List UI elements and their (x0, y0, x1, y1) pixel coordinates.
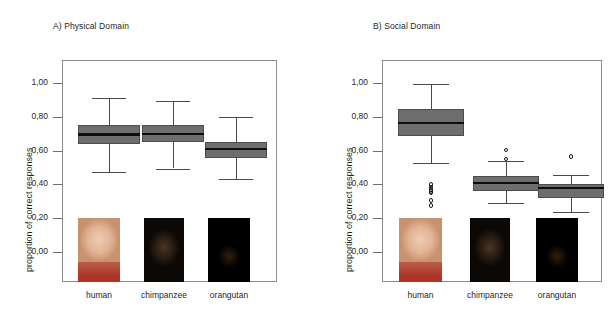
whisker-cap-upper (413, 84, 449, 85)
y-axis-tick-label: 0,20 (342, 212, 368, 222)
x-axis-label-human: human (64, 290, 134, 300)
human-child-photo (78, 218, 120, 282)
y-axis-tick-label: 0,40 (22, 178, 48, 188)
y-axis-tick (53, 184, 62, 185)
y-axis-tick (373, 252, 382, 253)
y-axis-tick (373, 151, 382, 152)
y-axis-tick-label: 0,40 (342, 178, 368, 188)
whisker-lower (571, 198, 572, 212)
whisker-upper (173, 101, 174, 126)
y-axis-tick-label: 0,80 (342, 111, 368, 121)
whisker-upper (571, 175, 572, 183)
whisker-lower (431, 136, 432, 162)
whisker-cap-upper (219, 117, 252, 118)
x-axis-label-orangutan: orangutan (194, 290, 264, 300)
y-axis-tick (373, 117, 382, 118)
median-line (78, 133, 140, 136)
whisker-upper (236, 117, 237, 142)
outlier-point (569, 154, 574, 159)
whisker-cap-lower (219, 179, 252, 180)
y-axis-tick (373, 83, 382, 84)
whisker-lower (506, 191, 507, 203)
panel-b-title: B) Social Domain (373, 21, 440, 31)
y-axis-tick (53, 252, 62, 253)
y-axis-tick-label: 0,60 (22, 145, 48, 155)
whisker-cap-upper (553, 175, 589, 176)
y-axis-tick-label: 0,80 (22, 111, 48, 121)
orangutan-photo (208, 218, 250, 282)
whisker-cap-upper (92, 98, 125, 99)
y-axis-tick-label: 0,20 (22, 212, 48, 222)
whisker-cap-upper (156, 101, 189, 102)
y-axis-tick-label: 0,60 (342, 145, 368, 155)
chimpanzee-photo (144, 218, 184, 282)
human-child-photo (399, 218, 442, 282)
median-line (538, 187, 604, 190)
whisker-cap-lower (553, 212, 589, 213)
whisker-cap-lower (92, 172, 125, 173)
outlier-point (429, 198, 434, 203)
panel-a-title: A) Physical Domain (53, 21, 129, 31)
whisker-lower (236, 158, 237, 180)
box-plot-figure: A) Physical Domain proportion of correct… (0, 0, 612, 318)
median-line (205, 148, 267, 151)
median-line (398, 122, 464, 125)
x-axis-label-chimpanzee: chimpanzee (455, 290, 525, 300)
whisker-upper (431, 84, 432, 109)
y-axis-tick-label: 0,00 (342, 246, 368, 256)
whisker-lower (173, 142, 174, 168)
whisker-cap-lower (413, 163, 449, 164)
whisker-cap-lower (156, 169, 189, 170)
y-axis-tick-label: 1,00 (22, 77, 48, 87)
y-axis-tick-label: 0,00 (22, 246, 48, 256)
whisker-cap-lower (488, 203, 524, 204)
y-axis-tick-label: 1,00 (342, 77, 368, 87)
median-line (473, 182, 539, 185)
x-axis-label-chimpanzee: chimpanzee (129, 290, 199, 300)
y-axis-tick (53, 218, 62, 219)
whisker-cap-upper (488, 161, 524, 162)
whisker-upper (109, 98, 110, 126)
median-line (142, 133, 204, 136)
y-axis-tick (373, 218, 382, 219)
outlier-point (504, 148, 509, 153)
panel-social-domain: B) Social Domain proportion of correct r… (306, 0, 612, 318)
chimpanzee-photo (470, 218, 510, 282)
outlier-point (429, 203, 434, 208)
x-axis-label-orangutan: orangutan (522, 290, 592, 300)
y-axis-tick (53, 117, 62, 118)
y-axis-tick (53, 151, 62, 152)
y-axis-tick (53, 83, 62, 84)
whisker-lower (109, 144, 110, 172)
whisker-upper (506, 161, 507, 176)
orangutan-photo (536, 218, 578, 282)
y-axis-tick (373, 184, 382, 185)
x-axis-label-human: human (386, 290, 456, 300)
outlier-point (429, 191, 434, 196)
panel-physical-domain: A) Physical Domain proportion of correct… (0, 0, 306, 318)
